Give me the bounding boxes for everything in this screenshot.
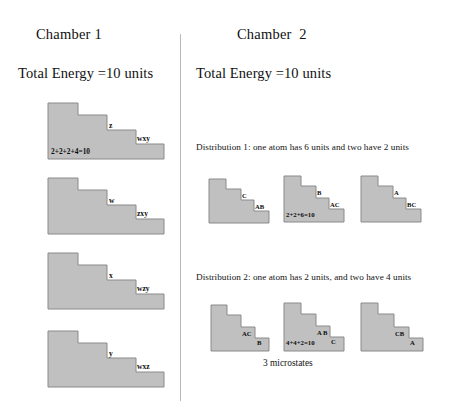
staircase-shape: [209, 179, 269, 223]
chamber2-energy-label: Total Energy =10 units: [196, 65, 331, 82]
chamber1-title: Chamber 1: [36, 26, 102, 43]
d2-fig-2: A B C 4+4+2=10: [284, 303, 344, 351]
c1-fig-2-step-label: zxy: [137, 209, 148, 218]
d1-fig-2-top-label: B: [317, 189, 321, 196]
chamber-divider: [180, 34, 181, 401]
c1-fig-4-top-label: y: [109, 349, 113, 358]
distribution2-caption: Distribution 2: one atom has 2 units, an…: [196, 272, 411, 282]
d1-fig-3-step-label: BC: [407, 201, 416, 208]
d1-fig-3-top-label: A: [394, 189, 399, 196]
d1-fig-2: B AC 2+2+6=10: [284, 176, 344, 222]
chamber2-title: Chamber 2: [237, 26, 307, 43]
d1-fig-1-top-label: C: [242, 192, 247, 199]
d1-fig-1-step-label: AB: [255, 203, 264, 210]
chamber1-energy-label: Total Energy =10 units: [18, 65, 153, 82]
c1-fig-3: x wzy: [48, 253, 164, 309]
d2-fig-1: AC B: [211, 305, 269, 351]
staircase-shape: [48, 331, 164, 387]
d2-fig-1-top-label: AC: [242, 330, 252, 337]
d2-fig-2-step-label: C: [331, 338, 336, 345]
d2-fig-3: CB A: [361, 303, 423, 351]
c1-fig-1: z wxy 2+2+2+4=10: [48, 103, 164, 159]
c1-fig-1-sum-label: 2+2+2+4=10: [51, 147, 90, 156]
c1-fig-2-top-label: w: [109, 196, 114, 205]
c1-fig-3-step-label: wzy: [137, 284, 150, 293]
microstates-footer: 3 microstates: [263, 358, 313, 368]
diagram-canvas: Chamber 1 Total Energy =10 units z wxy 2…: [0, 0, 449, 415]
staircase-shape: [361, 176, 421, 222]
d1-fig-2-step-label: AC: [330, 201, 340, 208]
d2-fig-3-step-label: A: [410, 339, 415, 346]
c1-fig-4: y wxz: [48, 331, 164, 387]
d2-fig-2-top-label: A B: [317, 329, 327, 336]
c1-fig-2: w zxy: [48, 178, 164, 234]
c1-fig-3-top-label: x: [109, 271, 113, 280]
c1-fig-1-top-label: z: [109, 121, 112, 130]
c1-fig-4-step-label: wxz: [137, 362, 150, 371]
d1-fig-2-sum-label: 2+2+6=10: [286, 211, 315, 218]
d1-fig-1: C AB: [209, 179, 269, 223]
d2-fig-3-top-label: CB: [395, 330, 404, 337]
d1-fig-3: A BC: [361, 176, 421, 222]
d2-fig-2-sum-label: 4+4+2=10: [286, 339, 315, 346]
staircase-shape: [48, 253, 164, 309]
c1-fig-1-step-label: wxy: [137, 134, 150, 143]
distribution1-caption: Distribution 1: one atom has 6 units and…: [196, 142, 409, 152]
staircase-shape: [48, 178, 164, 234]
d2-fig-1-step-label: B: [257, 339, 261, 346]
